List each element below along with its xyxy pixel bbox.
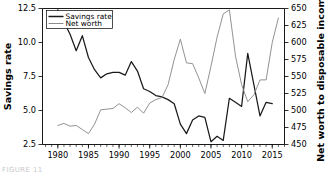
x-tick-label: 2015 bbox=[262, 150, 283, 160]
y-axis-right-title: Net worth to disposable income bbox=[315, 0, 326, 162]
y-tick-label-right: 450 bbox=[291, 139, 307, 149]
x-tick-label: 2005 bbox=[201, 150, 222, 160]
chart-svg: 2.5 5.0 7.5 10.0 12.5 450 475 500 525 55… bbox=[0, 0, 335, 175]
y-tick-label-right: 600 bbox=[291, 37, 307, 47]
y-tick-label-right: 650 bbox=[291, 3, 307, 13]
y-tick-label-right: 475 bbox=[291, 122, 307, 132]
x-axis-tick-labels: 19801985199019952000200520102015 bbox=[47, 150, 282, 160]
x-tick-label: 1985 bbox=[78, 150, 99, 160]
y-axis-left-title: Savings rate bbox=[2, 43, 13, 110]
y-tick-label-right: 550 bbox=[291, 71, 307, 81]
figure-container: 2.5 5.0 7.5 10.0 12.5 450 475 500 525 55… bbox=[0, 0, 335, 175]
y-tick-label-left: 10.0 bbox=[18, 37, 36, 47]
legend-label-net-worth: Net worth bbox=[66, 19, 103, 28]
y-tick-label-left: 2.5 bbox=[23, 139, 36, 149]
y-tick-label-right: 625 bbox=[291, 20, 307, 30]
x-tick-label: 2000 bbox=[170, 150, 191, 160]
y-tick-label-left: 12.5 bbox=[18, 3, 36, 13]
x-tick-label: 1995 bbox=[139, 150, 160, 160]
y-tick-label-right: 525 bbox=[291, 88, 307, 98]
y-tick-label-right: 575 bbox=[291, 54, 307, 64]
y-tick-label-left: 5.0 bbox=[23, 105, 36, 115]
x-tick-label: 2010 bbox=[231, 150, 252, 160]
y-tick-label-right: 500 bbox=[291, 105, 307, 115]
x-tick-label: 1990 bbox=[109, 150, 130, 160]
y-axis-right-ticks: 450 475 500 525 550 575 600 625 650 bbox=[285, 3, 307, 149]
data-series-group bbox=[58, 10, 279, 142]
y-axis-left-ticks: 2.5 5.0 7.5 10.0 12.5 bbox=[18, 3, 43, 149]
axes-frame bbox=[43, 9, 285, 145]
x-axis-major-ticks bbox=[58, 145, 272, 149]
chart-legend[interactable]: Savings rate Net worth bbox=[47, 11, 113, 29]
x-tick-label: 1980 bbox=[47, 150, 68, 160]
y-tick-label-left: 7.5 bbox=[23, 71, 36, 81]
figure-caption-fragment: FIGURE 11 bbox=[2, 166, 43, 174]
